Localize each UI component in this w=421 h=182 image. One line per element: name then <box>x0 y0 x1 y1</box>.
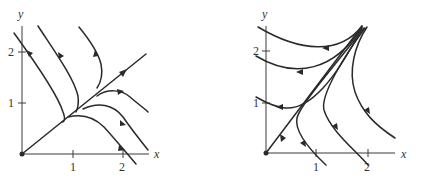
trajectory-upper-left-3 <box>79 27 102 88</box>
y-tick-label-2: 2 <box>8 45 14 59</box>
right-phase-portrait: 1 2 1 2 x y <box>210 0 421 182</box>
trajectory-bottom-1 <box>297 28 364 165</box>
arrow-icon <box>296 69 303 75</box>
right-plot-svg: 1 2 1 2 x y <box>210 0 421 182</box>
trajectory-top-2 <box>256 27 362 69</box>
x-tick-label-2: 2 <box>119 160 125 174</box>
arrow-icon <box>280 134 286 142</box>
arrow-icon <box>58 52 64 59</box>
trajectory-lower-right-3 <box>68 116 136 164</box>
trajectory-top-1 <box>258 26 362 47</box>
x-axis-label: x <box>153 147 160 161</box>
trajectory-bottom-3 <box>352 27 395 138</box>
trajectory-lower-right-1 <box>97 91 148 112</box>
x-tick-label-1: 1 <box>70 160 76 174</box>
trajectory-lower-right-2 <box>83 105 148 150</box>
y-tick-label-1: 1 <box>8 96 14 110</box>
diagonal-trajectory <box>22 54 146 154</box>
arrow-icon <box>276 104 283 110</box>
y-axis-label: y <box>261 7 268 21</box>
arrow-icon <box>119 69 127 77</box>
left-phase-portrait: 1 2 1 2 x y <box>0 0 210 182</box>
left-plot-svg: 1 2 1 2 x y <box>0 0 210 182</box>
arrow-icon <box>300 140 306 147</box>
y-axis-label: y <box>17 7 24 21</box>
x-axis-label: x <box>400 147 407 161</box>
arrow-icon <box>26 50 33 57</box>
x-tick-label-1: 1 <box>313 160 319 174</box>
